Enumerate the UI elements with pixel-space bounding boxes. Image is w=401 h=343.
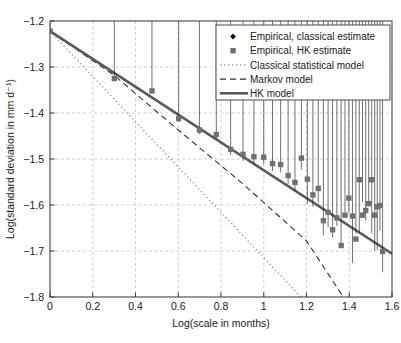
legend-label: Markov model — [250, 74, 313, 85]
x-tick-label: 0.6 — [171, 300, 186, 312]
legend-label: Classical statistical model — [250, 60, 364, 71]
data-point-square — [334, 215, 339, 220]
x-axis-title: Log(scale in months) — [172, 317, 269, 329]
data-point-square — [176, 116, 181, 121]
x-tick-label: 1.4 — [342, 300, 357, 312]
legend-label: Empirical, classical estimate — [250, 31, 375, 42]
x-tick-label: 0 — [47, 300, 53, 312]
data-point-square — [363, 208, 368, 213]
y-tick-label: −1.3 — [23, 61, 44, 73]
x-tick-label: 1 — [261, 300, 267, 312]
data-point-square — [330, 227, 335, 232]
scatter-plot-svg: 00.20.40.60.811.21.41.6−1.2−1.3−1.4−1.5−… — [0, 0, 401, 343]
data-point-square — [338, 243, 343, 248]
data-point-square — [240, 152, 245, 157]
y-tick-label: −1.7 — [23, 245, 44, 257]
legend: Empirical, classical estimateEmpirical, … — [216, 25, 390, 100]
data-point-square — [380, 249, 385, 254]
data-point-square — [377, 203, 382, 208]
x-tick-label: 0.4 — [128, 300, 143, 312]
data-point-square — [251, 154, 256, 159]
data-point-square — [350, 213, 355, 218]
data-point-square — [261, 154, 266, 159]
chart-canvas: 00.20.40.60.811.21.41.6−1.2−1.3−1.4−1.5−… — [0, 0, 401, 343]
chart-figure: 00.20.40.60.811.21.41.6−1.2−1.3−1.4−1.5−… — [0, 0, 401, 343]
x-tick-label: 1.6 — [385, 300, 400, 312]
data-point-square — [342, 212, 347, 217]
data-point-square — [149, 88, 154, 93]
data-point-square — [112, 76, 117, 81]
data-point-square — [316, 186, 321, 191]
data-point-square — [299, 155, 304, 160]
data-point-square — [228, 147, 233, 152]
data-point-square — [305, 177, 310, 182]
data-point-square — [285, 173, 290, 178]
data-point-square — [270, 161, 275, 166]
y-tick-label: −1.8 — [23, 291, 44, 303]
data-point-square — [360, 212, 365, 217]
y-tick-label: −1.2 — [23, 15, 44, 27]
data-point-square — [310, 192, 315, 197]
legend-label: HK model — [250, 88, 294, 99]
data-point-square — [214, 132, 219, 137]
data-point-square — [292, 180, 297, 185]
data-point-square — [369, 177, 374, 182]
data-point-square — [325, 210, 330, 215]
y-tick-label: −1.6 — [23, 199, 44, 211]
data-point-square — [197, 127, 202, 132]
data-point-square — [346, 195, 351, 200]
data-point-square — [353, 236, 358, 241]
y-tick-label: −1.5 — [23, 153, 44, 165]
data-point-square — [372, 212, 377, 217]
legend-marker-square — [230, 48, 235, 53]
y-axis-title: Log(standard deviation in mm d⁻¹) — [4, 79, 16, 239]
x-tick-label: 0.8 — [214, 300, 229, 312]
x-tick-label: 1.2 — [299, 300, 314, 312]
data-point-square — [321, 218, 326, 223]
data-point-square — [366, 201, 371, 206]
legend-label: Empirical, HK estimate — [250, 45, 352, 56]
data-point-square — [278, 162, 283, 167]
y-tick-label: −1.4 — [23, 107, 44, 119]
data-point-square — [357, 177, 362, 182]
x-tick-label: 0.2 — [85, 300, 100, 312]
